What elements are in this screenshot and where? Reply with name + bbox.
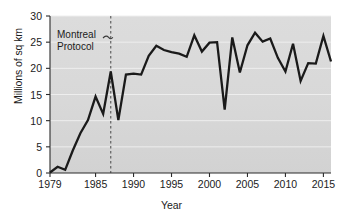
annotation-leader-icon (103, 36, 113, 39)
data-series-line (50, 33, 331, 173)
x-axis-label: Year (0, 199, 343, 211)
y-axis-label: Millions of sq km (12, 0, 24, 136)
y-tick-label: 5 (16, 142, 42, 152)
ozone-hole-chart: 051015202530 197919851990199520002005201… (0, 0, 343, 222)
y-tick-label: 0 (16, 168, 42, 178)
x-tick-label: 2015 (301, 179, 343, 189)
annotation-montreal-protocol: Montreal Protocol (57, 29, 96, 52)
x-tick-label: 1979 (28, 179, 72, 189)
